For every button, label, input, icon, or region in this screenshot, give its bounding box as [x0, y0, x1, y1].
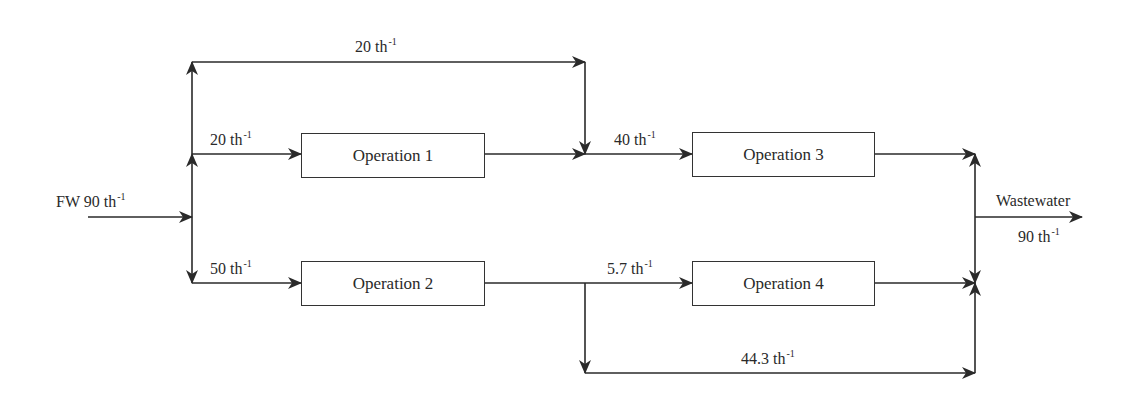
operation-3-label: Operation 3	[743, 145, 824, 165]
operation-4-label: Operation 4	[743, 274, 824, 294]
bottom-bypass-label: 44.3 th-1	[741, 349, 795, 367]
top-bypass-label: 20 th-1	[355, 37, 397, 55]
operation-3-box: Operation 3	[692, 132, 875, 177]
operation-2-box: Operation 2	[301, 261, 485, 306]
operation-1-label: Operation 1	[353, 146, 434, 166]
flow-diagram	[0, 0, 1145, 397]
freshwater-label: FW 90 th-1	[56, 192, 126, 210]
operation-4-box: Operation 4	[692, 261, 875, 306]
wastewater-title: Wastewater	[996, 193, 1070, 209]
operation-1-box: Operation 1	[301, 133, 485, 178]
to-op1-label: 20 th-1	[210, 130, 252, 148]
wastewater-flow-label: 90 th-1	[1018, 227, 1060, 245]
operation-2-label: Operation 2	[353, 274, 434, 294]
to-op3-label: 40 th-1	[614, 130, 656, 148]
to-op2-label: 50 th-1	[210, 259, 252, 277]
to-op4-label: 5.7 th-1	[607, 259, 653, 277]
